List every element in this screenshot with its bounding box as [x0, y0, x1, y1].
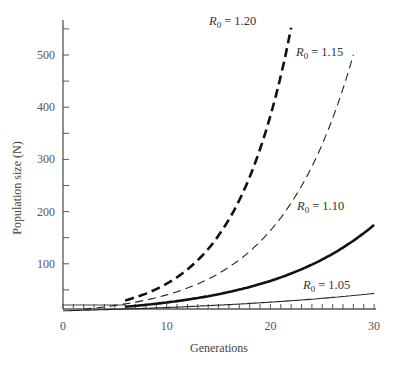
series-curve-1-1: [125, 225, 374, 307]
series-label: R0= 1.20: [208, 14, 256, 30]
chart: 0102030100200300400500 R0= 1.20R0= 1.15R…: [0, 0, 404, 367]
series-labels: R0= 1.20R0= 1.15R0= 1.10R0= 1.05: [208, 14, 350, 294]
series-label: R0= 1.10: [296, 199, 344, 215]
curves: [63, 28, 374, 311]
x-tick-label: 30: [368, 319, 380, 333]
y-tick-label: 300: [37, 152, 55, 166]
y-axis-title: Population size (N): [10, 141, 24, 234]
series-curve-1-2: [125, 28, 291, 301]
y-tick-label: 100: [37, 257, 55, 271]
x-tick-label: 20: [264, 319, 276, 333]
series-curve-1-15: [84, 55, 354, 309]
y-tick-label: 200: [37, 205, 55, 219]
x-tick-label: 10: [161, 319, 173, 333]
y-tick-label: 400: [37, 100, 55, 114]
x-axis-title: Generations: [190, 341, 248, 355]
x-tick-label: 0: [60, 319, 66, 333]
y-tick-label: 500: [37, 48, 55, 62]
series-label: R0= 1.15: [295, 45, 343, 61]
series-label: R0= 1.05: [302, 278, 350, 294]
